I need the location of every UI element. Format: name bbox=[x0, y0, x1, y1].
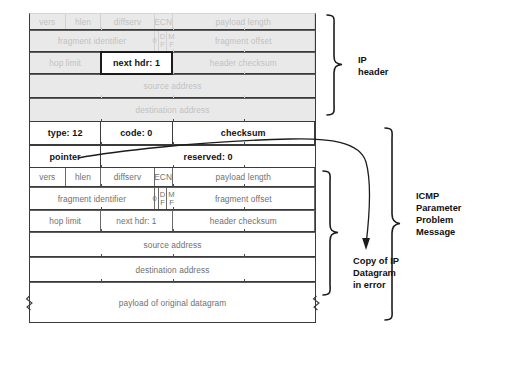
field-fragment-identifier: fragment identifier bbox=[30, 31, 155, 51]
copy-flag-df: D F bbox=[159, 188, 168, 209]
icmp-field-pointer: pointer bbox=[30, 146, 101, 167]
copy-field-fragment-identifier: fragment identifier bbox=[30, 188, 155, 209]
next-hdr-label: next hdr: 1 bbox=[113, 58, 160, 68]
flag-df: D F bbox=[159, 31, 168, 51]
copy-ip-row-2-block: fragment identifier 0 D F M F fragment o… bbox=[29, 187, 316, 210]
faded-ip-row-2: fragment identifier 0 D F M F fragment o… bbox=[30, 31, 315, 51]
flag-zero: 0 bbox=[151, 31, 158, 51]
diagram-canvas: vers hlen diffserv ECN payload length fr… bbox=[0, 0, 516, 378]
field-flags: 0 D F M F bbox=[155, 31, 173, 51]
next-hdr-highlight-box: next hdr: 1 bbox=[100, 51, 173, 75]
faded-ip-row-4: source address bbox=[30, 75, 315, 97]
icmp-row-2: pointer reserved: 0 bbox=[30, 146, 315, 167]
copy-field-diffserv: diffserv bbox=[101, 168, 154, 186]
flag-df-bottom: F bbox=[160, 41, 165, 49]
copy-ip-row-4-block: source address bbox=[29, 232, 316, 257]
copy-ip-row-3: hop limit next hdr: 1 header checksum bbox=[30, 211, 315, 231]
copy-ip-row-1-block: vers hlen diffserv ECN payload length bbox=[29, 168, 316, 187]
field-hlen: hlen bbox=[66, 14, 102, 29]
brace-ip-header bbox=[327, 15, 342, 115]
copy-flag-zero: 0 bbox=[151, 188, 158, 209]
icmp-field-checksum: checksum bbox=[173, 122, 316, 144]
label-icmp-message: ICMP Parameter Problem Message bbox=[416, 191, 461, 239]
copy-ip-row-2: fragment identifier 0 D F M F fragment o… bbox=[30, 188, 315, 209]
field-ecn: ECN bbox=[155, 14, 173, 29]
copy-field-fragment-offset: fragment offset bbox=[173, 188, 316, 209]
faded-ip-header-block: vers hlen diffserv ECN payload length bbox=[29, 13, 316, 30]
field-diffserv: diffserv bbox=[101, 14, 154, 29]
label-copy-of-ip: Copy of IP Datagram in error bbox=[353, 256, 399, 292]
faded-ip-row-5-block: destination address bbox=[29, 98, 316, 122]
copy-field-flags: 0 D F M F bbox=[155, 188, 173, 209]
copy-ip-row-5-block: destination address bbox=[29, 257, 316, 282]
icmp-row-2-block: pointer reserved: 0 bbox=[29, 145, 316, 168]
field-source-address: source address bbox=[30, 75, 315, 97]
brace-copy-of-ip bbox=[323, 171, 338, 295]
copy-ip-row-1: vers hlen diffserv ECN payload length bbox=[30, 168, 315, 186]
copy-field-hlen: hlen bbox=[66, 168, 102, 186]
icmp-field-code: code: 0 bbox=[101, 122, 172, 144]
faded-ip-row-2-block: fragment identifier 0 D F M F fragment o… bbox=[29, 30, 316, 52]
faded-ip-row-5: destination address bbox=[30, 99, 315, 121]
field-destination-address: destination address bbox=[30, 99, 315, 121]
copy-field-vers: vers bbox=[30, 168, 66, 186]
label-ip-header: IP header bbox=[358, 55, 389, 79]
icmp-row-1-block: type: 12 code: 0 checksum bbox=[29, 122, 316, 145]
faded-ip-row-4-block: source address bbox=[29, 74, 316, 98]
copy-ip-row-4: source address bbox=[30, 233, 315, 256]
field-hop-limit: hop limit bbox=[30, 53, 101, 73]
faded-ip-row-1: vers hlen diffserv ECN payload length bbox=[30, 14, 315, 29]
copy-ip-row-3-block: hop limit next hdr: 1 header checksum bbox=[29, 210, 316, 232]
field-fragment-offset: fragment offset bbox=[173, 31, 316, 51]
copy-flag-df-bottom: F bbox=[160, 199, 165, 207]
field-vers: vers bbox=[30, 14, 66, 29]
copy-ip-row-5: destination address bbox=[30, 258, 315, 281]
copy-field-payload: payload of original datagram bbox=[30, 283, 315, 322]
copy-field-source-address: source address bbox=[30, 233, 315, 256]
copy-ip-payload-row: payload of original datagram bbox=[30, 283, 315, 322]
icmp-field-reserved: reserved: 0 bbox=[101, 146, 315, 167]
icmp-field-type: type: 12 bbox=[30, 122, 101, 144]
copy-field-destination-address: destination address bbox=[30, 258, 315, 281]
icmp-row-1: type: 12 code: 0 checksum bbox=[30, 122, 315, 144]
copy-field-next-hdr: next hdr: 1 bbox=[101, 211, 172, 231]
copy-ip-payload-block: payload of original datagram bbox=[29, 282, 316, 323]
copy-field-ecn: ECN bbox=[155, 168, 173, 186]
field-header-checksum: header checksum bbox=[173, 53, 316, 73]
copy-field-header-checksum: header checksum bbox=[173, 211, 316, 231]
copy-field-hop-limit: hop limit bbox=[30, 211, 101, 231]
